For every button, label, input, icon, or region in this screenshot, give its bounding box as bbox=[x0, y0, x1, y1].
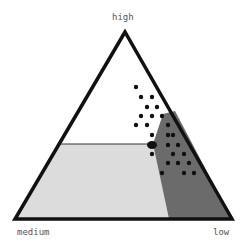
data-point bbox=[145, 105, 149, 109]
data-point bbox=[150, 133, 154, 137]
data-point bbox=[182, 152, 186, 156]
data-point bbox=[139, 95, 143, 99]
data-point bbox=[134, 85, 138, 89]
data-point bbox=[182, 171, 186, 175]
data-point bbox=[176, 161, 180, 165]
data-point bbox=[176, 143, 180, 147]
data-point bbox=[160, 171, 164, 175]
data-point bbox=[166, 143, 170, 147]
data-point bbox=[166, 123, 170, 127]
label-high: high bbox=[112, 12, 134, 22]
data-point bbox=[150, 152, 154, 156]
data-point bbox=[155, 105, 159, 109]
selected-marker bbox=[147, 141, 157, 149]
data-point bbox=[166, 161, 170, 165]
data-point bbox=[150, 95, 154, 99]
data-point bbox=[145, 123, 149, 127]
data-point bbox=[171, 152, 175, 156]
data-point bbox=[192, 171, 196, 175]
data-point bbox=[134, 123, 138, 127]
label-medium: medium bbox=[17, 227, 50, 237]
data-point bbox=[160, 114, 164, 118]
ternary-diagram bbox=[0, 0, 249, 249]
data-point bbox=[139, 114, 143, 118]
data-point bbox=[150, 114, 154, 118]
data-point bbox=[166, 133, 170, 137]
data-point bbox=[187, 161, 191, 165]
data-point bbox=[171, 133, 175, 137]
label-low: low bbox=[213, 227, 229, 237]
